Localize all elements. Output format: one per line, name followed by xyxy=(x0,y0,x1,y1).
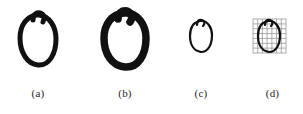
panel-caption-c: (c) xyxy=(174,86,228,100)
panel-d: (d) xyxy=(242,0,303,114)
handwritten-zero-b-svg xyxy=(80,0,170,80)
ink-stroke-c xyxy=(190,20,212,52)
panel-c: (c) xyxy=(174,0,228,114)
panel-caption-b: (b) xyxy=(80,86,170,100)
digit-artwork-a xyxy=(0,0,76,80)
panel-caption-a: (a) xyxy=(0,86,76,100)
digit-artwork-b xyxy=(80,0,170,80)
ink-stroke-b xyxy=(104,11,146,67)
panel-caption-d: (d) xyxy=(242,86,303,100)
digit-artwork-c xyxy=(174,0,228,80)
ink-stroke-a xyxy=(20,13,56,65)
handwritten-zero-d-svg xyxy=(242,0,303,80)
handwritten-zero-a-svg xyxy=(0,0,76,80)
panel-b: (b) xyxy=(80,0,170,114)
digit-artwork-d xyxy=(242,0,303,80)
handwritten-zero-c-svg xyxy=(174,0,228,80)
figure-container: (a) (b) (c) xyxy=(0,0,303,114)
panel-a: (a) xyxy=(0,0,76,114)
